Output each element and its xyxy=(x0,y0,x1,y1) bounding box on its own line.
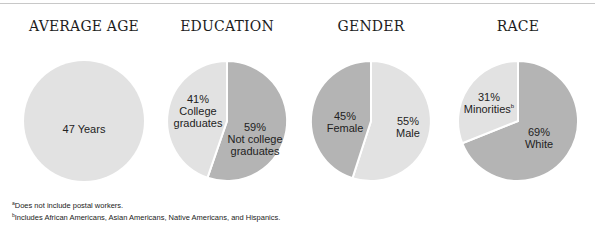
minorities-word: Minorities xyxy=(464,103,511,115)
label-not-college: 59% Not college graduates xyxy=(225,121,285,157)
college-line1: College xyxy=(173,105,223,117)
label-college: 41% College graduates xyxy=(173,93,223,129)
label-male: 55% Male xyxy=(385,115,431,139)
footnote-b: bIncludes African Americans, Asian Ameri… xyxy=(12,213,280,222)
not-college-line2: graduates xyxy=(225,145,285,157)
female-pct: 45% xyxy=(322,110,368,122)
minorities-pct: 31% xyxy=(459,91,519,103)
college-line2: graduates xyxy=(173,117,223,129)
label-white: 69% White xyxy=(514,126,564,150)
pie-average-age xyxy=(24,61,144,181)
footnote-a-text: Does not include postal workers. xyxy=(15,201,123,210)
minorities-text: Minoritiesb xyxy=(459,103,519,115)
white-pct: 69% xyxy=(514,126,564,138)
college-pct: 41% xyxy=(173,93,223,105)
label-age: 47 Years xyxy=(44,123,124,135)
footnote-b-text: Includes African Americans, Asian Americ… xyxy=(15,213,281,222)
label-minorities: 31% Minoritiesb xyxy=(459,91,519,115)
female-text: Female xyxy=(322,122,368,134)
pie-race xyxy=(458,61,578,181)
label-female: 45% Female xyxy=(322,110,368,134)
not-college-pct: 59% xyxy=(225,121,285,133)
male-pct: 55% xyxy=(385,115,431,127)
footnote-a: aDoes not include postal workers. xyxy=(12,201,123,210)
not-college-line1: Not college xyxy=(225,133,285,145)
footnote-b-marker: b xyxy=(511,103,514,109)
male-text: Male xyxy=(385,127,431,139)
white-text: White xyxy=(514,138,564,150)
